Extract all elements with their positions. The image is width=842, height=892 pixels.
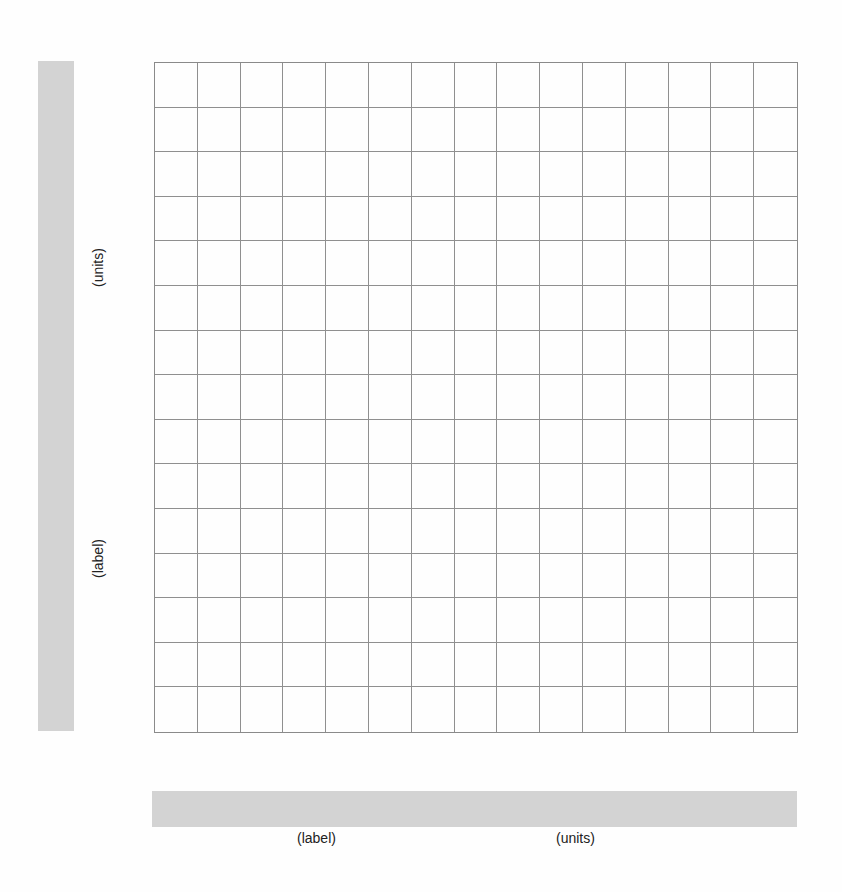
grid-cell xyxy=(626,554,669,599)
grid-cell xyxy=(497,108,540,153)
grid-cell xyxy=(583,464,626,509)
grid-cell xyxy=(412,197,455,242)
grid-cell xyxy=(412,63,455,108)
grid-cell xyxy=(711,598,754,643)
x-axis-label: (label) xyxy=(297,830,336,846)
grid-cell xyxy=(412,598,455,643)
grid-cell xyxy=(283,152,326,197)
grid-cell xyxy=(369,687,412,732)
grid-cell xyxy=(241,420,284,465)
grid-cell xyxy=(626,375,669,420)
grid-cell xyxy=(754,554,797,599)
grid-cell xyxy=(283,375,326,420)
grid-cell xyxy=(497,241,540,286)
grid-cell xyxy=(369,331,412,376)
grid-cell xyxy=(241,241,284,286)
grid-cell xyxy=(754,331,797,376)
grid-cell xyxy=(540,375,583,420)
grid-cell xyxy=(369,152,412,197)
grid-cell xyxy=(155,464,198,509)
grid-cell xyxy=(283,554,326,599)
grid-cell xyxy=(241,554,284,599)
grid-cell xyxy=(669,687,712,732)
grid-cell xyxy=(540,509,583,554)
grid-cell xyxy=(669,197,712,242)
grid-cell xyxy=(540,331,583,376)
grid-cell xyxy=(155,598,198,643)
grid-cell xyxy=(583,598,626,643)
grid-cell xyxy=(155,554,198,599)
grid-cell xyxy=(155,687,198,732)
grid-cell xyxy=(583,63,626,108)
grid-cell xyxy=(198,108,241,153)
grid-cell xyxy=(540,241,583,286)
grid-cell xyxy=(626,241,669,286)
grid-cell xyxy=(497,375,540,420)
grid-cell xyxy=(711,420,754,465)
grid-cell xyxy=(369,63,412,108)
grid-cell xyxy=(198,152,241,197)
grid-cell xyxy=(369,598,412,643)
grid-cell xyxy=(754,375,797,420)
grid-cell xyxy=(497,687,540,732)
x-axis-label-bar xyxy=(152,791,797,827)
grid-cell xyxy=(369,286,412,331)
grid-cell xyxy=(626,420,669,465)
grid-cell xyxy=(155,509,198,554)
grid-cell xyxy=(326,598,369,643)
grid-cell xyxy=(669,241,712,286)
grid-cell xyxy=(583,152,626,197)
grid-cell xyxy=(455,241,498,286)
grid-cell xyxy=(669,509,712,554)
grid-cell xyxy=(369,108,412,153)
grid-cell xyxy=(626,331,669,376)
grid-cell xyxy=(754,420,797,465)
grid-cell xyxy=(754,509,797,554)
grid-cell xyxy=(412,286,455,331)
grid-cell xyxy=(198,241,241,286)
grid-cell xyxy=(669,63,712,108)
grid-cell xyxy=(540,598,583,643)
grid-cell xyxy=(241,108,284,153)
grid-cell xyxy=(326,241,369,286)
grid-cell xyxy=(326,152,369,197)
grid-cell xyxy=(583,241,626,286)
grid-cell xyxy=(754,464,797,509)
grid-cell xyxy=(369,375,412,420)
grid-cell xyxy=(283,464,326,509)
grid-cell xyxy=(626,63,669,108)
grid-cell xyxy=(497,464,540,509)
grid-cell xyxy=(155,331,198,376)
grid-cell xyxy=(583,643,626,688)
grid-cell xyxy=(241,643,284,688)
grid-cell xyxy=(626,286,669,331)
grid-cell xyxy=(583,108,626,153)
grid-cell xyxy=(711,375,754,420)
grid-cell xyxy=(540,197,583,242)
grid-cell xyxy=(198,687,241,732)
grid-cell xyxy=(283,509,326,554)
grid-cell xyxy=(669,375,712,420)
grid-cell xyxy=(412,375,455,420)
grid-cell xyxy=(155,241,198,286)
grid-cell xyxy=(283,63,326,108)
grid-cell xyxy=(497,509,540,554)
grid-cell xyxy=(711,464,754,509)
grid-cell xyxy=(412,331,455,376)
grid-cell xyxy=(754,286,797,331)
grid-cell xyxy=(455,331,498,376)
grid-cell xyxy=(198,63,241,108)
grid-cell xyxy=(540,687,583,732)
grid-cell xyxy=(711,509,754,554)
grid-cell xyxy=(455,420,498,465)
grid-cell xyxy=(711,197,754,242)
grid-cell xyxy=(283,241,326,286)
grid-cell xyxy=(455,197,498,242)
grid-cell xyxy=(283,643,326,688)
grid-cell xyxy=(326,687,369,732)
grid-cell xyxy=(669,108,712,153)
grid-cell xyxy=(283,420,326,465)
grid-cell xyxy=(283,331,326,376)
grid-cell xyxy=(455,643,498,688)
grid-cell xyxy=(540,152,583,197)
